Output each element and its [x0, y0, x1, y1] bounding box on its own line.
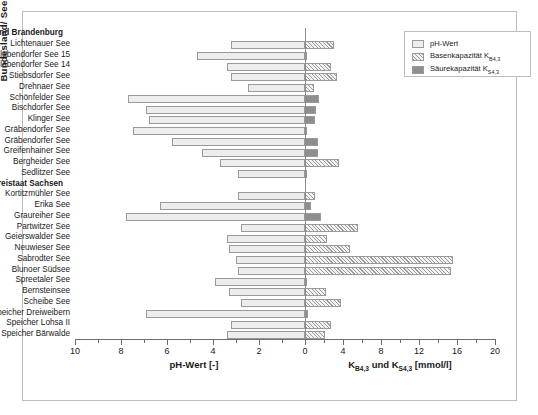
bar-ph-wert: [241, 224, 305, 232]
axis-tick-label: 12: [414, 346, 424, 356]
legend-item: pH-Wert: [412, 37, 530, 50]
zero-axis-line: [305, 28, 306, 339]
bar-ph-wert: [227, 331, 305, 339]
bar-saeurekapazitaet: [305, 213, 321, 221]
axis-tick-minor: [476, 339, 477, 343]
legend-swatch-base: [412, 53, 424, 61]
axis-tick-major: [75, 339, 76, 345]
bar-ph-wert: [231, 73, 305, 81]
bar-basenkapazitaet: [305, 267, 451, 275]
axis-tick-minor: [324, 339, 325, 343]
legend-swatch-ph: [412, 40, 424, 48]
bar-ph-wert: [215, 278, 305, 286]
row-label: Geierswalder See: [5, 233, 70, 241]
bar-ph-wert: [126, 213, 305, 221]
bar-saeurekapazitaet: [305, 95, 319, 103]
row-label: Speicher Lohsa II: [6, 319, 70, 327]
bar-saeurekapazitaet: [305, 138, 318, 146]
row-label: Erika See: [35, 201, 71, 209]
group-label: Land Brandenburg: [0, 29, 63, 37]
row-label: Lichtenauer See: [10, 40, 70, 48]
bar-basenkapazitaet: [305, 192, 315, 200]
row-label: Speicher Bärwalde: [1, 330, 70, 338]
axis-tick-minor: [438, 339, 439, 343]
row-label: Bischdorfer See: [12, 104, 70, 112]
x-axis-title-left: pH-Wert [-]: [170, 359, 219, 370]
legend-item: Säurekapazität KS4,3: [412, 63, 530, 76]
bar-ph-wert: [197, 52, 305, 60]
bar-saeurekapazitaet: [305, 149, 318, 157]
row-label: Bernsteinsee: [22, 287, 70, 295]
bar-ph-wert: [220, 159, 305, 167]
bar-ph-wert: [231, 41, 305, 49]
bar-ph-wert: [172, 138, 305, 146]
bar-ph-wert: [149, 116, 305, 124]
axis-tick-minor: [362, 339, 363, 343]
legend-label: pH-Wert: [430, 39, 458, 48]
bar-ph-wert: [238, 170, 305, 178]
row-label: Drehnaer See: [19, 83, 70, 91]
axis-tick-minor: [400, 339, 401, 343]
bar-basenkapazitaet: [305, 321, 331, 329]
axis-tick-label: 8: [118, 346, 123, 356]
row-label: Spreetaler See: [15, 276, 70, 284]
row-label: Bergheider See: [13, 158, 70, 166]
axis-tick-major: [419, 339, 420, 345]
row-label: Graureiher See: [14, 212, 70, 220]
row-label: Schlabendorfer See 15: [0, 51, 70, 59]
legend-swatch-acid: [412, 66, 424, 74]
axis-tick-major: [381, 339, 382, 345]
row-label: Sedlitzer See: [21, 169, 70, 177]
row-label: Greifenhainer See: [4, 147, 70, 155]
bar-saeurekapazitaet: [305, 116, 315, 124]
row-label: Blunoer Südsee: [12, 266, 70, 274]
legend-label: Basenkapazität KB4,3: [430, 51, 500, 62]
bar-ph-wert: [231, 321, 305, 329]
axis-tick-minor: [98, 339, 99, 343]
axis-tick-major: [167, 339, 168, 345]
axis-tick-label: 4: [340, 346, 345, 356]
bar-saeurekapazitaet: [305, 106, 316, 114]
axis-tick-label: 6: [164, 346, 169, 356]
legend-label: Säurekapazität KS4,3: [430, 64, 499, 75]
bar-ph-wert: [238, 192, 305, 200]
bar-ph-wert: [133, 127, 306, 135]
row-label: Gräbendorfer See: [4, 137, 70, 145]
bar-ph-wert: [229, 288, 305, 296]
row-label: Scheibe See: [24, 298, 70, 306]
axis-tick-major: [259, 339, 260, 345]
axis-tick-minor: [144, 339, 145, 343]
bar-basenkapazitaet: [305, 159, 339, 167]
legend-item: Basenkapazität KB4,3: [412, 50, 530, 63]
bar-basenkapazitaet: [305, 84, 314, 92]
bar-basenkapazitaet: [305, 288, 326, 296]
bar-ph-wert: [146, 310, 305, 318]
axis-tick-minor: [282, 339, 283, 343]
bar-basenkapazitaet: [305, 245, 350, 253]
bar-basenkapazitaet: [305, 256, 453, 264]
axis-tick-major: [121, 339, 122, 345]
bar-ph-wert: [202, 149, 306, 157]
bar-ph-wert: [227, 235, 305, 243]
axis-tick-major: [343, 339, 344, 345]
bar-ph-wert: [241, 299, 305, 307]
bar-ph-wert: [128, 95, 305, 103]
row-label: Schönfelder See: [9, 94, 70, 102]
axis-tick-label: 8: [378, 346, 383, 356]
bar-ph-wert: [238, 267, 305, 275]
row-label: Neuwieser See: [14, 244, 70, 252]
bar-ph-wert: [229, 245, 305, 253]
axis-tick-minor: [236, 339, 237, 343]
bar-basenkapazitaet: [305, 299, 341, 307]
row-label: Partwitzer See: [17, 223, 70, 231]
bar-basenkapazitaet: [305, 224, 358, 232]
bar-ph-wert: [248, 84, 306, 92]
row-label: Klinger See: [28, 115, 70, 123]
axis-tick-label: 2: [256, 346, 261, 356]
axis-tick-label: 16: [452, 346, 462, 356]
axis-tick-major: [305, 339, 306, 345]
axis-tick-minor: [190, 339, 191, 343]
bar-ph-wert: [236, 256, 305, 264]
figure-canvas: Bundesland/ Seename Land BrandenburgLich…: [0, 0, 538, 415]
bar-basenkapazitaet: [305, 41, 334, 49]
